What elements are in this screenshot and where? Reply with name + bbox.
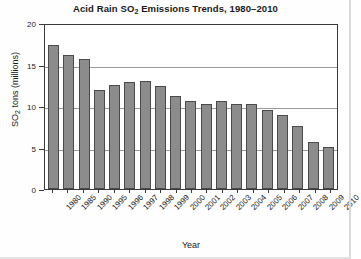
y-axis-tick-label: 0 — [32, 186, 36, 195]
x-axis-tick-label: 1996 — [126, 193, 145, 212]
bar — [262, 110, 273, 189]
x-axis-tick-label: 1995 — [110, 193, 129, 212]
bar — [63, 55, 74, 189]
x-axis-tick-label: 2005 — [265, 193, 284, 212]
x-axis-tick-label: 1997 — [141, 193, 160, 212]
bar — [292, 126, 303, 189]
y-axis-label: SO2 tons (millions) — [10, 15, 21, 165]
x-axis-tick-label: 1998 — [157, 193, 176, 212]
y-axis: SO2 tons (millions) 20151050 — [0, 24, 44, 190]
bar — [323, 147, 334, 189]
y-axis-tick-label: 10 — [27, 103, 36, 112]
bar — [277, 115, 288, 189]
bar — [231, 104, 242, 189]
bar-series — [45, 25, 337, 189]
chart-title-suffix: Emissions Trends, 1980–2010 — [138, 3, 278, 14]
x-axis-tick-label: 2003 — [234, 193, 253, 212]
y-axis-tick-label: 15 — [27, 61, 36, 70]
bar — [201, 104, 212, 189]
plot-area — [44, 24, 338, 190]
x-axis-tick-label: 1999 — [172, 193, 191, 212]
bar — [48, 45, 59, 189]
x-axis-tick-label: 1985 — [79, 193, 98, 212]
x-axis-tick-label: 2007 — [296, 193, 315, 212]
x-axis-tick-label: 1990 — [95, 193, 114, 212]
bar — [216, 101, 227, 189]
bar — [246, 104, 257, 189]
y-axis-tick-label: 20 — [27, 20, 36, 29]
x-axis-tick-label: 2008 — [312, 193, 331, 212]
x-axis-tick-label: 2000 — [188, 193, 207, 212]
y-axis-label-prefix: SO — [10, 114, 20, 127]
x-axis-tick-label: 2009 — [327, 193, 346, 212]
bar — [124, 82, 135, 189]
x-axis-tick-label: 2002 — [219, 193, 238, 212]
bar — [155, 86, 166, 189]
x-axis-tick-label: 2001 — [203, 193, 222, 212]
x-axis-label: Year — [44, 240, 338, 250]
bar — [170, 96, 181, 189]
chart-title-prefix: Acid Rain SO — [73, 3, 134, 14]
bar — [308, 142, 319, 189]
bar — [140, 81, 151, 189]
bar — [109, 85, 120, 189]
x-axis-tick-label: 2010 — [342, 193, 361, 212]
bar — [94, 90, 105, 189]
y-axis-tick-label: 5 — [32, 144, 36, 153]
y-axis-label-suffix: tons (millions) — [10, 52, 20, 110]
y-axis-label-subscript: 2 — [14, 110, 21, 114]
x-axis-tick-label: 1980 — [64, 193, 83, 212]
chart-title: Acid Rain SO2 Emissions Trends, 1980–201… — [0, 3, 351, 15]
x-axis-tick-label: 2004 — [250, 193, 269, 212]
bar — [79, 59, 90, 189]
x-axis-tick-labels: 1980198519901995199619971998199920002001… — [44, 193, 338, 229]
scan-edge-right — [349, 0, 351, 259]
x-axis-tick-label: 2006 — [281, 193, 300, 212]
bar — [185, 101, 196, 189]
